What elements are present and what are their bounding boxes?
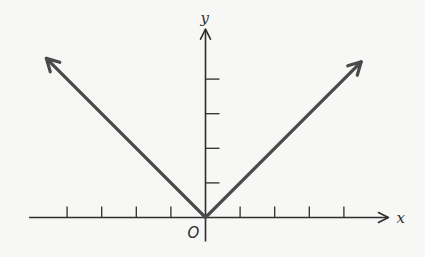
y-axis-label: y — [200, 9, 210, 27]
origin-label: O — [188, 224, 200, 242]
series — [46, 58, 361, 217]
axes — [29, 29, 388, 241]
absolute-value-graph: x y O — [0, 0, 425, 257]
x-axis-label: x — [396, 209, 405, 227]
graph-line — [46, 58, 361, 217]
